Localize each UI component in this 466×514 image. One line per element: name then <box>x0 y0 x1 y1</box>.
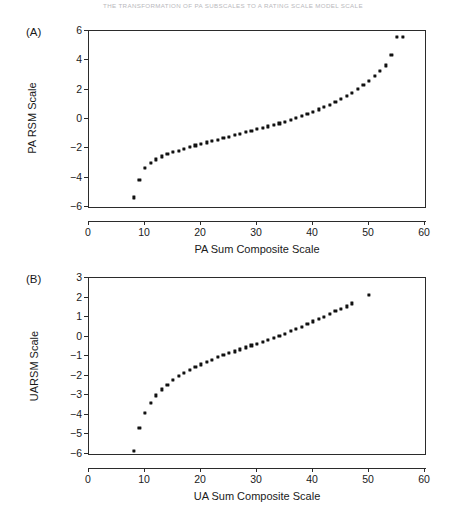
data-point <box>261 340 264 343</box>
data-point <box>233 350 236 353</box>
y-axis-title-a: PA RSM Scale <box>26 58 38 178</box>
y-tick-label: 0 <box>76 113 82 124</box>
x-tick-label: 10 <box>138 474 150 485</box>
plot-frame-a <box>88 30 426 208</box>
data-point <box>205 141 208 144</box>
data-point <box>283 332 286 335</box>
data-point <box>183 147 186 150</box>
data-point <box>323 315 326 318</box>
y-tick-label: −6 <box>70 448 82 459</box>
data-point <box>177 374 180 377</box>
data-point <box>233 134 236 137</box>
data-point <box>199 363 202 366</box>
data-point <box>367 293 370 296</box>
x-tick-mark <box>256 468 257 472</box>
data-point <box>339 98 342 101</box>
data-point <box>155 394 158 397</box>
plot-frame-b <box>88 277 426 455</box>
data-point <box>138 178 141 181</box>
data-point <box>300 114 303 117</box>
x-tick-mark <box>144 221 145 225</box>
data-point <box>367 79 370 82</box>
x-tick-mark <box>200 468 201 472</box>
data-point <box>227 352 230 355</box>
running-header: THE TRANSFORMATION OF PA SUBSCALES TO A … <box>0 0 466 11</box>
data-point <box>149 161 152 164</box>
data-point <box>199 142 202 145</box>
data-point <box>222 354 225 357</box>
x-axis-title-b: UA Sum Composite Scale <box>88 490 426 502</box>
y-tick-label: −1 <box>70 350 82 361</box>
plot-area-b <box>89 278 425 454</box>
y-tick-label: 1 <box>76 311 82 322</box>
y-axis-title-b: UARSM Scale <box>28 306 40 426</box>
data-point <box>306 322 309 325</box>
data-point <box>216 138 219 141</box>
data-point <box>244 131 247 134</box>
data-point <box>345 95 348 98</box>
data-point <box>278 334 281 337</box>
data-point <box>323 106 326 109</box>
data-point <box>160 155 163 158</box>
data-point <box>328 103 331 106</box>
y-tick-label: 2 <box>76 83 82 94</box>
data-point <box>311 110 314 113</box>
data-point <box>306 112 309 115</box>
chart-panel-a: (A) PA RSM Scale 6420−2−4−6 010203040506… <box>0 18 466 258</box>
y-tick-label: 6 <box>76 25 82 36</box>
x-tick-mark <box>312 221 313 225</box>
data-point <box>143 411 146 414</box>
x-tick-mark <box>368 468 369 472</box>
data-point <box>138 426 141 429</box>
data-point <box>334 101 337 104</box>
data-point <box>289 118 292 121</box>
x-tick-band-a: 0102030405060 <box>88 221 426 241</box>
data-point <box>211 358 214 361</box>
data-point <box>272 123 275 126</box>
data-point <box>328 313 331 316</box>
data-point <box>194 144 197 147</box>
data-point <box>317 108 320 111</box>
data-point <box>267 338 270 341</box>
data-point <box>143 167 146 170</box>
x-tick-label: 40 <box>306 474 318 485</box>
data-point <box>171 150 174 153</box>
data-point <box>334 310 337 313</box>
data-point <box>379 69 382 72</box>
x-tick-label: 30 <box>250 474 262 485</box>
data-point <box>188 368 191 371</box>
data-point <box>295 116 298 119</box>
data-point <box>390 54 393 57</box>
x-tick-label: 0 <box>85 474 91 485</box>
data-point <box>149 402 152 405</box>
plot-area-a <box>89 31 425 207</box>
data-point <box>311 320 314 323</box>
data-point <box>239 132 242 135</box>
data-point <box>166 383 169 386</box>
x-tick-label: 60 <box>418 474 430 485</box>
x-tick-mark <box>368 221 369 225</box>
x-tick-label: 50 <box>362 227 374 238</box>
x-tick-mark <box>88 221 89 225</box>
x-tick-label: 20 <box>194 474 206 485</box>
data-point <box>188 146 191 149</box>
data-point <box>384 64 387 67</box>
data-point <box>132 196 135 199</box>
data-point <box>183 371 186 374</box>
data-point <box>317 317 320 320</box>
data-point <box>283 120 286 123</box>
data-point <box>339 307 342 310</box>
data-point <box>300 325 303 328</box>
y-tick-labels-b: 3210−1−2−3−4−5−6 <box>56 277 82 455</box>
data-point <box>356 87 359 90</box>
data-point <box>155 158 158 161</box>
data-point <box>171 378 174 381</box>
data-point <box>295 327 298 330</box>
data-point <box>250 344 253 347</box>
data-point <box>211 139 214 142</box>
x-tick-label: 60 <box>418 227 430 238</box>
y-tick-label: −4 <box>70 171 82 182</box>
x-tick-label: 10 <box>138 227 150 238</box>
data-point <box>267 125 270 128</box>
data-point <box>255 342 258 345</box>
